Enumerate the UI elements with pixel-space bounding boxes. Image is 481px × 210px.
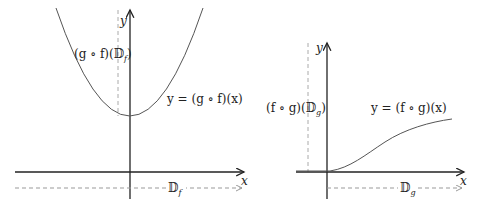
right-curve-label: y = (f ∘ g)(x)	[370, 101, 447, 115]
right-range-label: (f ∘ g)(𝔻g)	[266, 101, 326, 117]
left-x-label: x	[241, 174, 248, 188]
left-plot: y x (g ∘ f)(𝔻f) y = (g ∘ f)(x) 𝔻f	[15, 8, 248, 199]
left-range-label: (g ∘ f)(𝔻f)	[74, 47, 132, 63]
right-sigmoid-curve	[296, 119, 452, 171]
left-y-label: y	[119, 14, 127, 28]
right-y-label: y	[315, 41, 323, 55]
composition-diagram: y x (g ∘ f)(𝔻f) y = (g ∘ f)(x) 𝔻f y x (f…	[0, 0, 481, 210]
left-curve-label: y = (g ∘ f)(x)	[166, 92, 243, 106]
right-x-label: x	[460, 174, 467, 188]
right-plot: y x (f ∘ g)(𝔻g) y = (f ∘ g)(x) 𝔻g	[266, 41, 467, 199]
